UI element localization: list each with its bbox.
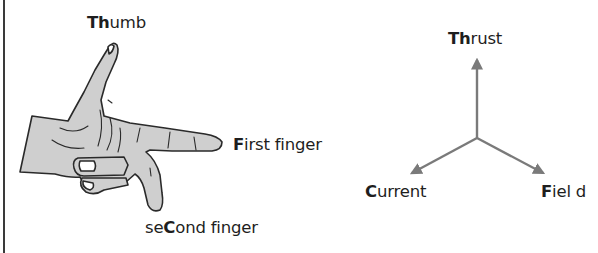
label-second-finger-pre: se	[145, 218, 163, 237]
diagram-canvas	[0, 0, 598, 253]
label-thumb-bold: Th	[87, 13, 110, 32]
label-current-bold: C	[365, 182, 377, 201]
label-thrust: Thrust	[448, 31, 502, 48]
label-first-finger: First finger	[233, 137, 322, 154]
label-first-finger-rest: irst finger	[244, 135, 322, 154]
label-thumb-rest: umb	[110, 13, 146, 32]
fingernail	[79, 161, 95, 171]
label-current: Current	[365, 184, 426, 201]
label-second-finger: seCond finger	[145, 220, 258, 237]
hand-illustration	[20, 43, 222, 210]
label-thrust-rest: rust	[471, 29, 503, 48]
label-field-rest: iel d	[552, 182, 586, 201]
vector-axes	[412, 60, 543, 173]
label-second-finger-bold: C	[163, 218, 175, 237]
label-field: Fiel d	[541, 184, 586, 201]
label-second-finger-rest: ond finger	[175, 218, 258, 237]
label-thrust-bold: Th	[448, 29, 471, 48]
field-arrow	[477, 138, 543, 173]
label-field-bold: F	[541, 182, 552, 201]
current-arrow	[412, 138, 477, 173]
label-first-finger-bold: F	[233, 135, 244, 154]
label-current-rest: urrent	[377, 182, 426, 201]
label-thumb: Thumb	[87, 15, 146, 32]
